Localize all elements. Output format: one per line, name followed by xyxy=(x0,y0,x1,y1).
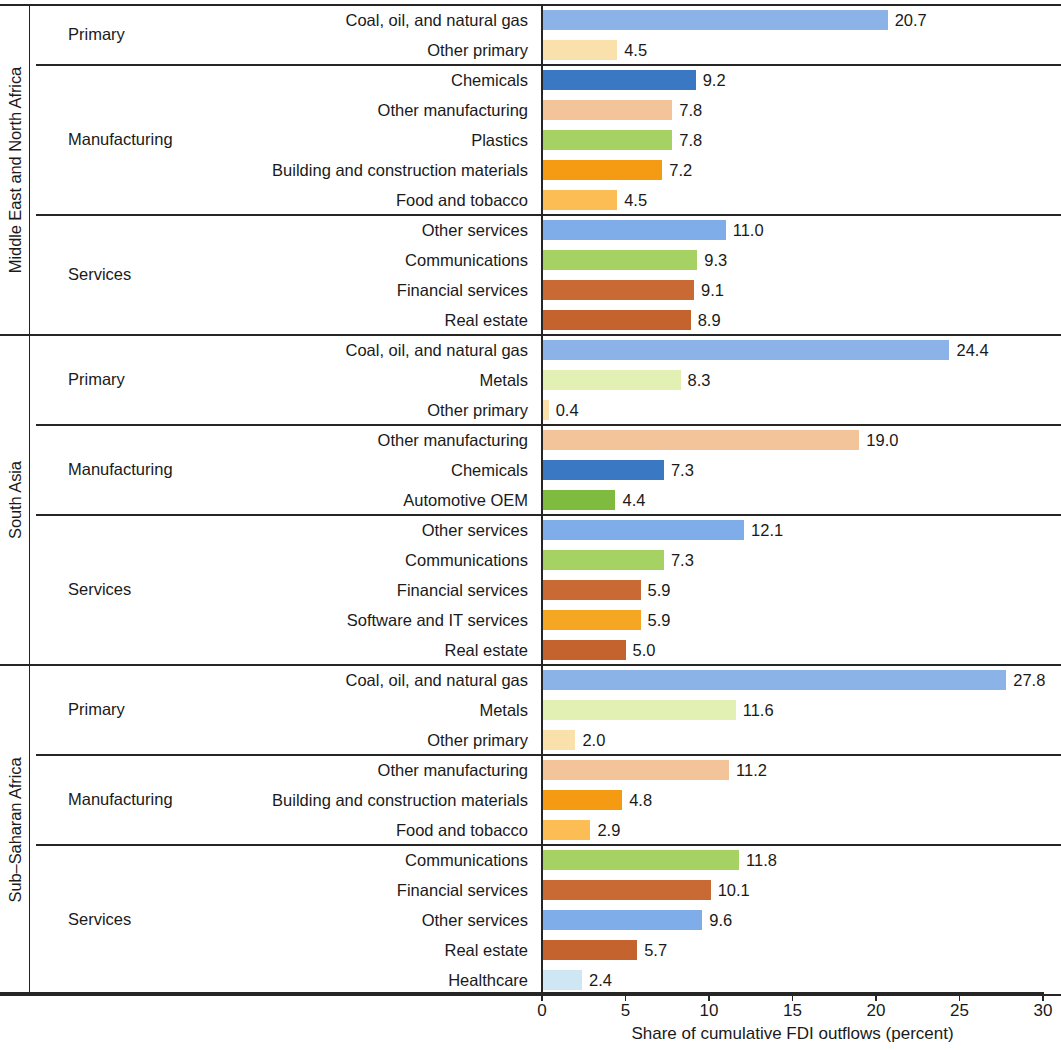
x-tick xyxy=(708,992,710,1001)
bar-value-label: 2.9 xyxy=(590,815,620,845)
bar-0[interactable] xyxy=(542,670,1006,690)
chart-row: Other manufacturing11.2 xyxy=(30,755,1061,785)
bar-value-label: 4.4 xyxy=(615,485,645,515)
bar-1[interactable] xyxy=(542,250,697,270)
chart-row: Plastics7.8 xyxy=(30,125,1061,155)
chart-row: Other manufacturing19.0 xyxy=(30,425,1061,455)
bar-value-label: 7.2 xyxy=(662,155,692,185)
region-column: Middle East and North Africa xyxy=(0,5,30,335)
category-label: Other manufacturing xyxy=(30,755,535,785)
chart-row: Food and tobacco4.5 xyxy=(30,185,1061,215)
bar-2[interactable] xyxy=(542,910,702,930)
bar-3[interactable] xyxy=(542,610,641,630)
category-label: Real estate xyxy=(30,635,535,665)
bar-track: 9.6 xyxy=(542,905,1061,935)
bar-2[interactable] xyxy=(542,130,672,150)
category-label: Other services xyxy=(30,515,535,545)
x-tick xyxy=(541,992,543,1001)
chart-row: Metals11.6 xyxy=(30,695,1061,725)
bar-2[interactable] xyxy=(542,580,641,600)
bar-0[interactable] xyxy=(542,520,744,540)
chart-row: Building and construction materials7.2 xyxy=(30,155,1061,185)
bar-4[interactable] xyxy=(542,190,617,210)
group-label: Services xyxy=(68,580,131,599)
bar-track: 5.9 xyxy=(542,575,1061,605)
bar-track: 27.8 xyxy=(542,665,1061,695)
bar-value-label: 10.1 xyxy=(711,875,750,905)
x-tick xyxy=(959,992,961,1001)
bar-1[interactable] xyxy=(542,100,672,120)
bar-1[interactable] xyxy=(542,550,664,570)
category-label: Healthcare xyxy=(30,965,535,995)
bar-2[interactable] xyxy=(542,490,615,510)
category-label: Real estate xyxy=(30,935,535,965)
chart-row: Other primary4.5 xyxy=(30,35,1061,65)
category-label: Chemicals xyxy=(30,65,535,95)
bar-2[interactable] xyxy=(542,820,590,840)
category-label: Other manufacturing xyxy=(30,95,535,125)
bar-4[interactable] xyxy=(542,970,582,990)
bar-track: 11.2 xyxy=(542,755,1061,785)
region-column: Sub–Saharan Africa xyxy=(0,665,30,995)
bar-1[interactable] xyxy=(542,40,617,60)
chart-row: Other services12.1 xyxy=(30,515,1061,545)
chart-row: Real estate5.7 xyxy=(30,935,1061,965)
chart-row: Coal, oil, and natural gas20.7 xyxy=(30,5,1061,35)
bar-value-label: 5.9 xyxy=(641,575,671,605)
bar-value-label: 7.3 xyxy=(664,545,694,575)
bar-track: 4.5 xyxy=(542,185,1061,215)
bar-value-label: 12.1 xyxy=(744,515,783,545)
bar-2[interactable] xyxy=(542,280,694,300)
x-tick xyxy=(792,992,794,1001)
bar-track: 4.5 xyxy=(542,35,1061,65)
chart-row: Other primary2.0 xyxy=(30,725,1061,755)
bar-0[interactable] xyxy=(542,10,888,30)
bar-0[interactable] xyxy=(542,340,949,360)
bar-value-label: 24.4 xyxy=(949,335,988,365)
bar-value-label: 7.8 xyxy=(672,125,702,155)
bar-track: 0.4 xyxy=(542,395,1061,425)
bar-track: 4.4 xyxy=(542,485,1061,515)
bar-value-label: 2.4 xyxy=(582,965,612,995)
region-divider-rule xyxy=(0,994,1061,996)
bar-3[interactable] xyxy=(542,160,662,180)
chart-row: Real estate5.0 xyxy=(30,635,1061,665)
x-tick xyxy=(1042,992,1044,1001)
category-label: Other services xyxy=(30,215,535,245)
group-label: Primary xyxy=(68,700,125,719)
bar-1[interactable] xyxy=(542,700,736,720)
chart-plot-area: Coal, oil, and natural gas20.7Other prim… xyxy=(0,0,1061,1050)
bar-2[interactable] xyxy=(542,400,549,420)
bar-value-label: 11.0 xyxy=(726,215,764,245)
bar-0[interactable] xyxy=(542,430,859,450)
bar-value-label: 11.8 xyxy=(739,845,777,875)
bar-track: 11.6 xyxy=(542,695,1061,725)
bar-1[interactable] xyxy=(542,790,622,810)
chart-row: Coal, oil, and natural gas27.8 xyxy=(30,665,1061,695)
bar-2[interactable] xyxy=(542,730,575,750)
bar-3[interactable] xyxy=(542,940,637,960)
category-label: Software and IT services xyxy=(30,605,535,635)
bar-3[interactable] xyxy=(542,310,691,330)
chart-row: Financial services5.9 xyxy=(30,575,1061,605)
plot-zero-line xyxy=(541,665,543,995)
bar-0[interactable] xyxy=(542,850,739,870)
bar-track: 11.0 xyxy=(542,215,1061,245)
bar-1[interactable] xyxy=(542,880,711,900)
bar-track: 12.1 xyxy=(542,515,1061,545)
category-label: Other primary xyxy=(30,395,535,425)
chart-row: Financial services9.1 xyxy=(30,275,1061,305)
bar-1[interactable] xyxy=(542,370,681,390)
chart-row: Food and tobacco2.9 xyxy=(30,815,1061,845)
bar-0[interactable] xyxy=(542,220,726,240)
bar-0[interactable] xyxy=(542,70,696,90)
bar-0[interactable] xyxy=(542,760,729,780)
group-label: Services xyxy=(68,265,131,284)
bar-value-label: 9.2 xyxy=(696,65,726,95)
bar-1[interactable] xyxy=(542,460,664,480)
category-label: Coal, oil, and natural gas xyxy=(30,335,535,365)
x-tick-label: 15 xyxy=(783,1001,802,1021)
bar-4[interactable] xyxy=(542,640,626,660)
chart-row: Metals8.3 xyxy=(30,365,1061,395)
chart-row: Communications7.3 xyxy=(30,545,1061,575)
